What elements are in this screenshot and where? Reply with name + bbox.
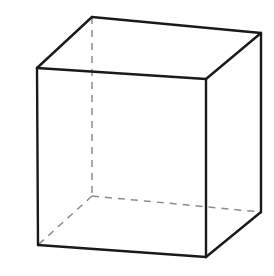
edge-front-left [37,68,38,245]
cube-diagram [0,0,274,276]
front-face [37,68,206,257]
figure-canvas [0,0,274,276]
cube-faces [37,17,261,257]
